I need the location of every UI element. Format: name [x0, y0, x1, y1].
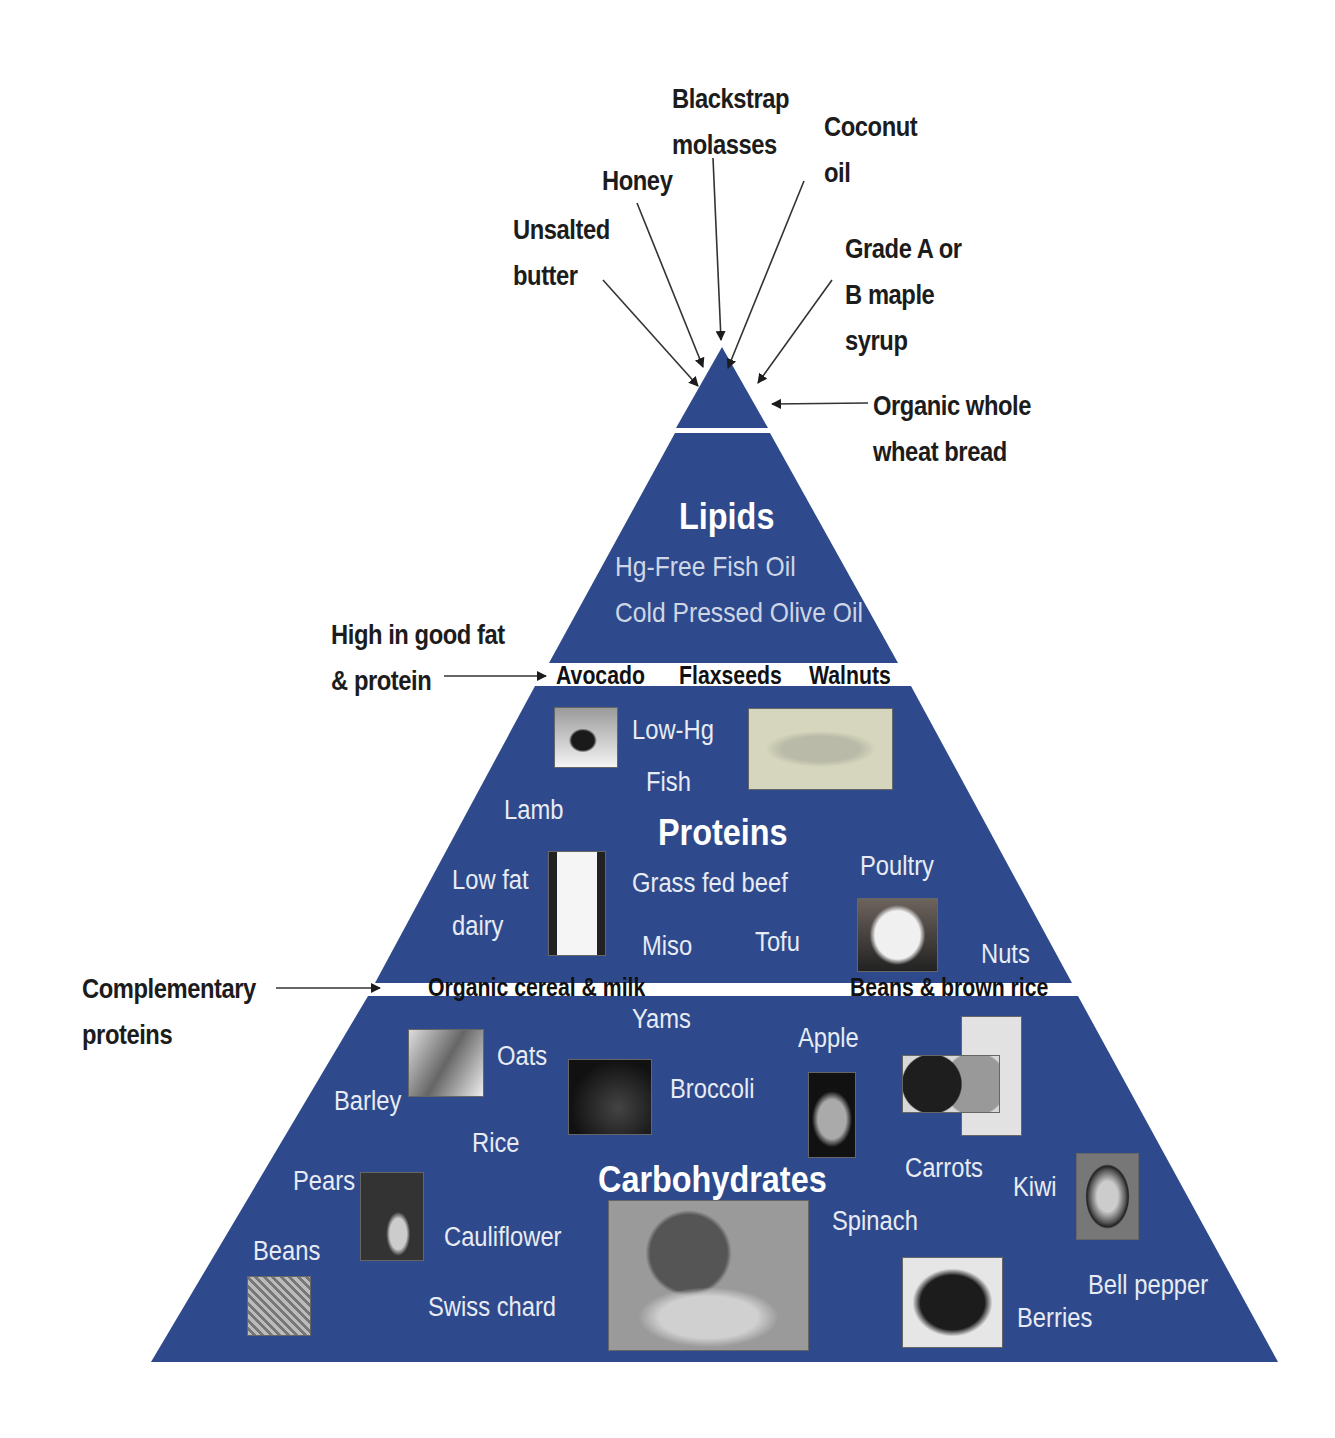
protein-low-fat: Low fat — [452, 867, 529, 894]
carb-carrots: Carrots — [905, 1155, 983, 1182]
callout-good-fat-protein: High in good fat & protein — [331, 612, 505, 704]
carb-oats: Oats — [497, 1043, 547, 1070]
band-avocado: Avocado — [556, 663, 645, 688]
broccoli-photo — [568, 1059, 652, 1135]
band-walnuts: Walnuts — [809, 663, 891, 688]
apple-photo — [808, 1072, 856, 1158]
arrow-unsalted-butter — [603, 280, 698, 386]
carb-beans: Beans — [253, 1238, 320, 1265]
label-coconut-oil: Coconut oil — [824, 104, 917, 196]
arrow-honey — [637, 203, 703, 367]
carb-kiwi: Kiwi — [1013, 1174, 1057, 1201]
lipids-item-olive-oil: Cold Pressed Olive Oil — [615, 599, 863, 627]
egg-photo — [857, 898, 938, 972]
vegetable-basket-photo — [608, 1200, 809, 1351]
tier-lipids — [549, 433, 898, 663]
arrow-maple-syrup — [758, 280, 832, 383]
avocado-photo — [554, 707, 618, 768]
carb-yams: Yams — [632, 1006, 691, 1033]
protein-miso: Miso — [642, 933, 692, 960]
callout-complementary-proteins: Complementary proteins — [82, 966, 256, 1058]
carb-bell-pepper: Bell pepper — [1088, 1272, 1208, 1299]
lipids-title: Lipids — [679, 499, 774, 535]
arrow-blackstrap — [713, 158, 721, 340]
tier-tip — [676, 347, 768, 428]
pear-photo — [360, 1172, 424, 1261]
protein-dairy: dairy — [452, 913, 504, 940]
protein-poultry: Poultry — [860, 853, 934, 880]
band-cereal-milk: Organic cereal & milk — [428, 975, 645, 1000]
carb-swiss-chard: Swiss chard — [428, 1294, 556, 1321]
carb-apple: Apple — [798, 1025, 859, 1052]
carb-spinach: Spinach — [832, 1208, 918, 1235]
carb-cauliflower: Cauliflower — [444, 1224, 562, 1251]
proteins-title: Proteins — [658, 815, 788, 851]
carb-berries: Berries — [1017, 1305, 1092, 1332]
carb-pears: Pears — [293, 1168, 355, 1195]
carbohydrates-title: Carbohydrates — [598, 1162, 827, 1198]
label-maple-syrup: Grade A or B maple syrup — [845, 226, 962, 364]
berries-photo — [902, 1257, 1003, 1348]
carb-rice: Rice — [472, 1130, 520, 1157]
label-honey: Honey — [602, 168, 672, 195]
band-flaxseeds: Flaxseeds — [679, 663, 782, 688]
carb-broccoli: Broccoli — [670, 1076, 755, 1103]
protein-grass-fed-beef: Grass fed beef — [632, 870, 788, 897]
protein-fish: Fish — [646, 769, 691, 796]
oats-photo — [408, 1029, 484, 1097]
protein-lamb: Lamb — [504, 797, 563, 824]
fish-photo — [748, 708, 893, 790]
arrow-coconut-oil — [728, 181, 804, 368]
label-whole-wheat-bread: Organic whole wheat bread — [873, 383, 1031, 475]
lipids-item-fish-oil: Hg-Free Fish Oil — [615, 553, 796, 581]
grain-bowls-photo-front — [902, 1055, 1000, 1113]
label-blackstrap-molasses: Blackstrap molasses — [672, 76, 789, 168]
beans-photo — [247, 1276, 311, 1336]
kiwi-photo — [1076, 1153, 1139, 1240]
milk-glass-photo — [548, 851, 606, 956]
band-beans-brown-rice: Beans & brown rice — [850, 975, 1048, 1000]
carb-barley: Barley — [334, 1088, 401, 1115]
label-unsalted-butter: Unsalted butter — [513, 207, 610, 299]
protein-tofu: Tofu — [755, 929, 800, 956]
protein-low-hg: Low-Hg — [632, 717, 714, 744]
protein-nuts: Nuts — [981, 941, 1030, 968]
arrow-bread — [772, 403, 868, 404]
